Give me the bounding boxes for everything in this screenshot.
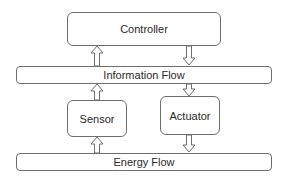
- actuator-label: Actuator: [170, 110, 211, 122]
- information-flow-bar: Information Flow: [16, 66, 272, 84]
- sensor-box: Sensor: [67, 100, 127, 137]
- actuator-box: Actuator: [160, 96, 220, 135]
- controller-box: Controller: [67, 12, 221, 46]
- arrow-up-icon: [91, 46, 103, 66]
- energy-flow-label: Energy Flow: [113, 156, 174, 168]
- arrow-down-icon: [183, 84, 195, 96]
- sensor-label: Sensor: [80, 113, 115, 125]
- arrow-up-icon: [91, 84, 103, 100]
- information-flow-label: Information Flow: [103, 69, 184, 81]
- arrow-up-icon: [91, 137, 103, 153]
- controller-label: Controller: [120, 23, 168, 35]
- arrow-down-icon: [183, 46, 195, 65]
- arrow-down-icon: [183, 135, 195, 152]
- energy-flow-bar: Energy Flow: [16, 153, 272, 171]
